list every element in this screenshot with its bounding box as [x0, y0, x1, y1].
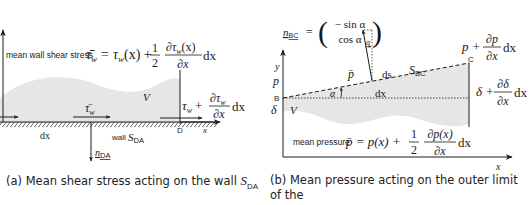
- pressure-frac-num: ∂p(x): [427, 127, 452, 141]
- shear-dx: dx: [203, 48, 217, 63]
- wall-label: wall: [111, 133, 126, 142]
- panel-a: mean wall shear stress τ̄w= τw(x) + 1 2 …: [0, 30, 246, 161]
- half-num: 1: [152, 41, 158, 55]
- tau-right-expr: τw+: [182, 98, 202, 115]
- caption-a-surface: SDA: [240, 173, 258, 188]
- alpha-label: α: [330, 88, 336, 99]
- point-d: D: [177, 126, 183, 135]
- wall-hatch: [0, 122, 218, 127]
- pressure-dx: dx: [458, 135, 472, 150]
- p-label: p: [272, 74, 279, 88]
- ds-label: ds: [382, 68, 392, 80]
- shear-frac-num: ∂τw(x): [166, 40, 196, 56]
- delta-frac-num: ∂δ: [497, 77, 509, 91]
- tau-right-dx: dx: [232, 99, 246, 114]
- normal-eq: =: [306, 25, 313, 39]
- pressure-lhs: p̄ = p(x) +: [345, 134, 401, 149]
- dx-label-b: dx: [375, 87, 387, 99]
- y-axis-label-b: y: [274, 61, 280, 72]
- tau-right-frac-num: ∂τw: [210, 91, 226, 107]
- caption-a: (a) Mean shear stress acting on the wall…: [6, 173, 258, 194]
- caption-b-line2: boundary layer: [292, 204, 379, 205]
- normal-bottom: cos α: [338, 33, 361, 45]
- tau-right-frac-den: ∂x: [213, 107, 225, 121]
- normal-bc-label: nBC: [283, 26, 298, 39]
- x-axis-label-a: x: [202, 125, 207, 135]
- caption-b-surface: SBC: [383, 203, 399, 205]
- p-plus: p +: [461, 39, 481, 54]
- pressure-half-num: 1: [411, 127, 417, 141]
- caption-b: (b) Mean pressure acting on the outer li…: [270, 173, 530, 205]
- x-axis-label-b: x: [495, 161, 501, 172]
- alpha-top-label: α: [366, 38, 371, 47]
- delta-plus: δ +: [476, 84, 494, 99]
- pressure-half-den: 2: [411, 143, 417, 157]
- mean-pressure-label: mean pressure: [293, 137, 350, 147]
- delta-dx: dx: [514, 85, 528, 100]
- delta-frac-den: ∂x: [497, 94, 509, 108]
- normal-da-label: nDA: [95, 147, 110, 160]
- delta-label: δ: [271, 103, 277, 117]
- pressure-frac-den: ∂x: [434, 144, 446, 158]
- p-dx: dx: [503, 40, 517, 55]
- dx-label-a: dx: [40, 130, 50, 141]
- wall-shear-label: mean wall shear stress: [6, 50, 93, 60]
- caption-a-text: Mean shear stress acting on the wall: [26, 174, 237, 188]
- panel-b: nBC = ( − sin α cos α ) α p + ∂p ∂x dx C…: [271, 15, 528, 172]
- point-c: C: [468, 55, 474, 64]
- shear-frac-den: ∂x: [177, 57, 189, 71]
- paren-left: (: [318, 15, 328, 49]
- point-b: B: [274, 94, 279, 103]
- wall-surface-sda: SDA: [128, 131, 144, 145]
- caption-b-tag: (b): [270, 173, 286, 187]
- caption-a-tag: (a): [6, 174, 22, 188]
- caption-b-line1: Mean pressure acting on the outer limit …: [270, 173, 518, 202]
- p-bar-label: p̄: [347, 67, 354, 81]
- half-den: 2: [152, 56, 158, 70]
- p-frac-num: ∂p: [486, 32, 498, 46]
- p-frac-den: ∂x: [486, 49, 498, 63]
- surface-bc-label: SBC: [409, 63, 426, 78]
- shear-formula-lhs: τ̄w= τw(x) +: [86, 47, 152, 64]
- normal-top: − sin α: [335, 18, 366, 30]
- paren-right: ): [372, 15, 382, 49]
